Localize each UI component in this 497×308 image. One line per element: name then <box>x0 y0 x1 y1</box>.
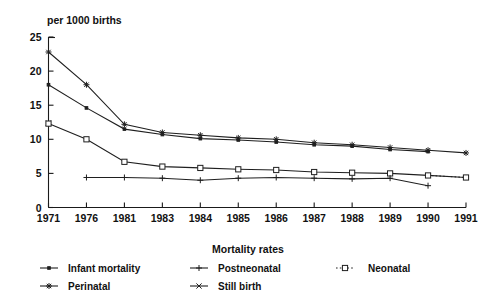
data-point-star-icon <box>46 283 52 289</box>
data-point-open-square-icon <box>463 175 468 180</box>
y-tick-label: 10 <box>30 133 42 145</box>
data-point-plus-icon <box>83 174 89 180</box>
data-point-dot-icon <box>351 145 354 148</box>
legend-label: Infant mortality <box>68 263 141 274</box>
series-path <box>49 52 467 153</box>
legend-title-text: Mortality rates <box>212 243 284 255</box>
x-tick-label: 1986 <box>265 212 289 224</box>
y-axis-tick-labels: 0510152025 <box>30 31 42 214</box>
chart-legend: Mortality rates Infant mortalityPostneon… <box>40 243 410 292</box>
x-tick-label: 1988 <box>340 212 364 224</box>
y-axis-title-text: per 1000 births <box>47 14 122 26</box>
data-point-open-square-icon <box>425 173 430 178</box>
data-point-dot-icon <box>237 139 240 142</box>
data-point-open-square-icon <box>46 121 51 126</box>
data-point-plus-icon <box>273 174 279 180</box>
data-point-open-square-icon <box>198 165 203 170</box>
series-perinatal <box>46 49 470 156</box>
data-point-dot-icon <box>427 150 430 153</box>
x-tick-label: 1987 <box>303 212 327 224</box>
data-point-dot-icon <box>313 143 316 146</box>
x-tick-label: 1971 <box>37 212 61 224</box>
data-point-open-square-icon <box>84 137 89 142</box>
y-tick-label: 20 <box>30 65 42 77</box>
data-point-dot-icon <box>85 107 88 110</box>
legend-item-perinatal[interactable]: Perinatal <box>40 281 110 292</box>
data-point-dot-icon <box>199 137 202 140</box>
data-point-open-square-icon <box>350 170 355 175</box>
data-point-open-square-icon <box>236 167 241 172</box>
x-tick-label: 1981 <box>113 212 137 224</box>
legend-label: Perinatal <box>68 281 110 292</box>
y-tick-label: 25 <box>30 31 42 43</box>
data-point-star-icon <box>121 121 127 127</box>
data-point-plus-icon <box>159 175 165 181</box>
chart-svg: per 1000 births 0510152025 1971197619811… <box>0 0 497 308</box>
legend-label: Neonatal <box>368 263 410 274</box>
data-point-dot-icon <box>161 133 164 136</box>
data-point-dot-icon <box>389 148 392 151</box>
legend-item-infant-mortality[interactable]: Infant mortality <box>40 263 141 274</box>
x-tick-label: 1989 <box>378 212 402 224</box>
data-point-open-square-icon <box>122 159 127 164</box>
legend-label: Postneonatal <box>218 263 281 274</box>
legend-item-still-birth[interactable]: Still birth <box>190 281 261 292</box>
data-point-star-icon <box>463 150 469 156</box>
x-tick-label: 1991 <box>454 212 478 224</box>
y-axis-title: per 1000 births <box>47 14 122 26</box>
data-point-plus-icon <box>425 183 431 189</box>
data-point-dot-icon <box>123 128 126 131</box>
x-axis-ticks <box>49 203 467 208</box>
x-axis-tick-labels: 1971197619811983198419851986198719881989… <box>37 212 478 224</box>
data-point-star-icon <box>83 82 89 88</box>
data-point-plus-icon <box>235 175 241 181</box>
y-tick-label: 15 <box>30 99 42 111</box>
data-point-plus-icon <box>196 265 202 271</box>
data-point-dot-icon <box>275 141 278 144</box>
series-postneonatal <box>83 174 431 188</box>
series-infant-mortality <box>47 83 429 152</box>
data-point-open-square-icon <box>312 169 317 174</box>
data-point-dot-icon <box>47 83 50 86</box>
x-tick-label: 1985 <box>227 212 251 224</box>
legend-label: Still birth <box>218 281 261 292</box>
series-path <box>87 178 429 186</box>
data-point-open-square-icon <box>160 164 165 169</box>
x-tick-label: 1990 <box>416 212 440 224</box>
legend-item-postneonatal[interactable]: Postneonatal <box>190 263 281 274</box>
data-point-dot-icon <box>48 267 51 270</box>
data-point-plus-icon <box>197 177 203 183</box>
y-tick-label: 5 <box>36 167 42 179</box>
x-tick-label: 1983 <box>151 212 175 224</box>
data-point-plus-icon <box>121 174 127 180</box>
data-point-star-icon <box>46 49 52 55</box>
x-tick-label: 1984 <box>189 212 213 224</box>
x-tick-label: 1976 <box>75 212 99 224</box>
data-point-open-square-icon <box>274 167 279 172</box>
legend-item-neonatal[interactable]: Neonatal <box>336 263 410 274</box>
data-series-layer <box>46 49 470 189</box>
data-point-plus-icon <box>349 176 355 182</box>
data-point-plus-icon <box>311 175 317 181</box>
mortality-rates-line-chart: per 1000 births 0510152025 1971197619811… <box>0 0 497 308</box>
data-point-open-square-icon <box>342 265 347 270</box>
